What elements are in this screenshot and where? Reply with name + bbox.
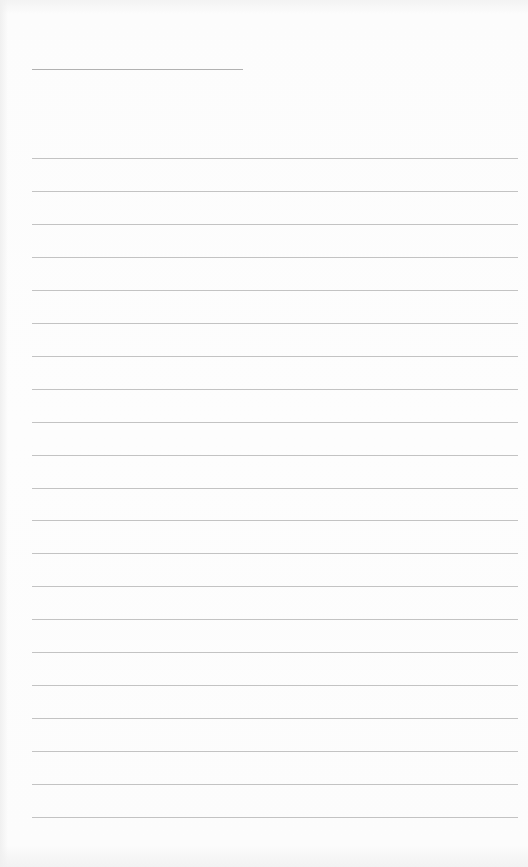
ruled-line [32,422,518,423]
ruled-line [32,553,518,554]
ruled-line [32,685,518,686]
ruled-line [32,817,518,818]
ruled-line [32,520,518,521]
ruled-line [32,619,518,620]
header-rule [32,69,243,70]
ruled-line [32,751,518,752]
page-edge-shadow [0,0,8,867]
ruled-line [32,784,518,785]
ruled-line [32,586,518,587]
ruled-line [32,191,518,192]
ruled-line [32,356,518,357]
ruled-line [32,455,518,456]
ruled-line [32,652,518,653]
ruled-line [32,290,518,291]
ruled-line [32,257,518,258]
lined-paper-sheet [0,0,528,867]
ruled-line [32,158,518,159]
ruled-line [32,323,518,324]
ruled-line [32,488,518,489]
ruled-line [32,389,518,390]
ruled-line [32,224,518,225]
ruled-line [32,718,518,719]
